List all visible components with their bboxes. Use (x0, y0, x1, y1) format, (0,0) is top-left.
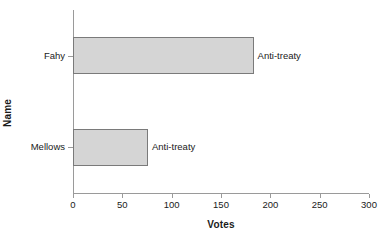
bar-fahy (73, 37, 254, 74)
x-tick-label: 300 (349, 199, 389, 210)
x-tick-label: 50 (102, 199, 142, 210)
x-tick-label: 100 (152, 199, 192, 210)
x-tick (73, 194, 74, 198)
x-tick-label: 0 (53, 199, 93, 210)
x-tick (221, 194, 222, 198)
x-tick-label: 250 (300, 199, 340, 210)
y-axis-title: Name (2, 78, 13, 148)
x-tick-label: 150 (201, 199, 241, 210)
x-tick-label: 200 (250, 199, 290, 210)
x-tick (122, 194, 123, 198)
x-axis-title: Votes (73, 219, 369, 230)
y-tick-label-fahy: Fahy (44, 50, 65, 61)
x-tick (320, 194, 321, 198)
x-tick (369, 194, 370, 198)
bar-mellows (73, 129, 148, 166)
plot-area: Anti-treatyAnti-treaty (73, 10, 369, 193)
bar-chart: Name Anti-treatyAnti-treaty 050100150200… (0, 0, 390, 241)
bar-value-label-mellows: Anti-treaty (152, 141, 195, 152)
y-tick-label-mellows: Mellows (31, 141, 65, 152)
x-tick (172, 194, 173, 198)
bar-value-label-fahy: Anti-treaty (258, 50, 301, 61)
y-tick (68, 56, 73, 57)
x-tick (270, 194, 271, 198)
y-tick (68, 147, 73, 148)
